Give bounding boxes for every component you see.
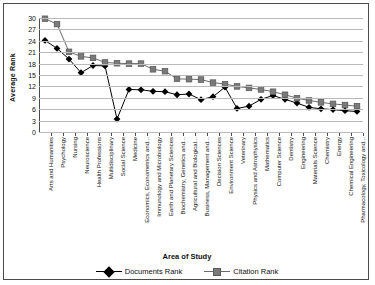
x-axis-tick-label: Earth and Planetary Sciences <box>168 137 174 247</box>
data-point-citation-rank <box>162 68 168 74</box>
data-point-documents-rank <box>162 88 169 95</box>
x-axis-tick-mark <box>63 133 64 136</box>
x-axis-tick-mark <box>243 133 244 136</box>
gridline <box>39 64 363 65</box>
diamond-marker-icon <box>96 267 122 276</box>
x-axis-tick-mark <box>87 133 88 136</box>
legend-label-citation-rank: Citation Rank <box>233 267 278 276</box>
chart-legend: Documents Rank Citation Rank <box>4 267 370 276</box>
data-point-citation-rank <box>270 89 276 95</box>
x-axis-tick-mark <box>363 133 364 136</box>
data-point-documents-rank <box>138 86 145 93</box>
x-axis-tick-mark <box>255 133 256 136</box>
gridline <box>39 18 363 19</box>
x-axis-tick-mark <box>231 133 232 136</box>
series-line-citation-rank <box>45 19 357 106</box>
legend-item-documents-rank: Documents Rank <box>96 267 183 276</box>
x-axis-title: Area of Study <box>4 252 370 261</box>
x-axis-tick-label: Materials Science <box>312 137 318 247</box>
x-axis-tick-label: Agricultural and Biological... <box>192 137 198 247</box>
x-axis-tick-mark <box>75 133 76 136</box>
x-axis-tick-label: Physics and Astrophysics <box>252 137 258 247</box>
x-axis-tick-label: Multidisciplinary <box>108 137 114 247</box>
x-axis-tick-mark <box>195 133 196 136</box>
data-point-documents-rank <box>150 88 157 95</box>
y-axis-tick-label: 3 <box>32 117 36 124</box>
data-point-citation-rank <box>258 87 264 93</box>
y-axis-tick-labels: 036912151821242730 <box>17 18 38 136</box>
x-axis-tick-mark <box>171 133 172 136</box>
gridline <box>39 41 363 42</box>
gridline <box>39 29 363 30</box>
y-axis-tick-label: 24 <box>28 37 36 44</box>
x-axis-tick-label: Medicine <box>132 137 138 247</box>
x-axis-tick-mark <box>327 133 328 136</box>
data-point-documents-rank <box>186 91 193 98</box>
x-axis-tick-mark <box>291 133 292 136</box>
x-axis-tick-label: Business, Management and... <box>204 137 210 247</box>
x-axis-tick-label: Pharmacology, Toxicology and... <box>360 137 366 247</box>
x-axis-tick-mark <box>315 133 316 136</box>
y-axis-tick-label: 0 <box>32 129 36 136</box>
x-axis-tick-label: Energy <box>336 137 342 247</box>
plot-area <box>39 18 363 132</box>
y-axis-tick-label: 18 <box>28 60 36 67</box>
data-point-citation-rank <box>150 67 156 73</box>
x-axis-tick-label: Health Professions <box>96 137 102 247</box>
x-axis-tick-mark <box>111 133 112 136</box>
legend-item-citation-rank: Citation Rank <box>204 267 278 276</box>
x-axis-tick-mark <box>135 133 136 136</box>
data-point-citation-rank <box>78 54 84 60</box>
gridline <box>39 121 363 122</box>
gridline <box>39 86 363 87</box>
x-axis-tick-mark <box>267 133 268 136</box>
x-axis-tick-label: Mathematics <box>264 137 270 247</box>
legend-label-documents-rank: Documents Rank <box>125 267 183 276</box>
x-axis-tick-mark <box>339 133 340 136</box>
x-axis-tick-mark <box>219 133 220 136</box>
y-axis-title-text: Average Rank <box>9 53 16 102</box>
x-axis-tick-label: Immunology and Microbiology <box>156 137 162 247</box>
x-axis-tick-label: Environment Science <box>228 137 234 247</box>
data-point-citation-rank <box>198 77 204 83</box>
x-axis-tick-label: Nursing <box>72 137 78 247</box>
x-axis-tick-label: Computer Science <box>276 137 282 247</box>
x-axis-tick-mark <box>183 133 184 136</box>
square-marker-icon <box>204 267 230 276</box>
x-axis-tick-mark <box>351 133 352 136</box>
data-point-citation-rank <box>282 92 288 98</box>
x-axis-tick-label: Arts and Humanities <box>48 137 54 247</box>
gridline <box>39 98 363 99</box>
data-point-citation-rank <box>318 100 324 106</box>
x-axis-tick-mark <box>159 133 160 136</box>
y-axis-tick-label: 12 <box>28 83 36 90</box>
y-axis-tick-label: 27 <box>28 26 36 33</box>
data-point-citation-rank <box>342 102 348 108</box>
chart-frame: Average Rank 036912151821242730 Arts and… <box>3 3 369 280</box>
data-point-citation-rank <box>354 103 360 109</box>
y-axis-tick-label: 15 <box>28 72 36 79</box>
y-axis-tick-label: 9 <box>32 94 36 101</box>
data-point-citation-rank <box>330 101 336 107</box>
x-axis-tick-label: Neuroscience <box>84 137 90 247</box>
x-axis-tick-label: Chemical Engineering <box>348 137 354 247</box>
gridline <box>39 109 363 110</box>
x-axis-tick-label: Social Science <box>120 137 126 247</box>
x-axis-tick-mark <box>279 133 280 136</box>
data-point-citation-rank <box>210 80 216 86</box>
x-axis-tick-label: Veterinary <box>240 137 246 247</box>
data-point-citation-rank <box>54 21 60 27</box>
x-axis-tick-mark <box>99 133 100 136</box>
x-axis-tick-mark <box>207 133 208 136</box>
x-axis-tick-labels: Arts and HumanitiesPsychologyNursingNeur… <box>39 137 363 249</box>
y-axis-tick-label: 21 <box>28 49 36 56</box>
data-point-citation-rank <box>174 76 180 82</box>
gridline <box>39 75 363 76</box>
x-axis-tick-mark <box>303 133 304 136</box>
x-axis-tick-label: Dentistry <box>288 137 294 247</box>
x-axis-tick-label: Chemistry <box>324 137 330 247</box>
data-point-citation-rank <box>186 76 192 82</box>
x-axis-tick-label: Economics, Econometrics and... <box>144 137 150 247</box>
x-axis-tick-mark <box>147 133 148 136</box>
gridline <box>39 52 363 53</box>
